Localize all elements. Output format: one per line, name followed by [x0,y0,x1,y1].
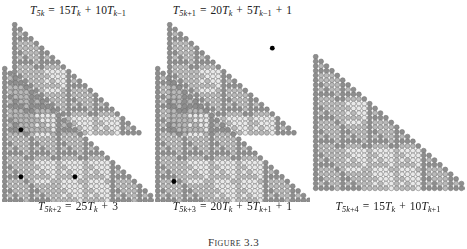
triangle-array-t5k1 [155,22,310,202]
formula-t5k: T5k = 15Tk + 10Tk−1 [2,4,154,18]
formula-t5k2: T5k+2 = 25Tk + 3 [2,200,154,214]
figure-caption: Figure 3.3 [0,236,467,248]
panel-left: T5k = 15Tk + 10Tk−1 T5k+2 = 25Tk + 3 [2,4,154,214]
formula-t5k3: T5k+3 = 20Tk + 5Tk+1 + 1 [155,200,310,214]
triangle-array-t5k [2,22,154,202]
formula-t5k1: T5k+1 = 20Tk + 5Tk−1 + 1 [155,4,310,18]
panel-middle: T5k+1 = 20Tk + 5Tk−1 + 1 T5k+3 = 20Tk + … [155,4,310,214]
figure-root: T5k = 15Tk + 10Tk−1 T5k+2 = 25Tk + 3 T5k… [0,0,467,249]
triangle-array-t5k4 [311,54,465,202]
panel-right: T5k+4 = 15Tk + 10Tk+1 [311,4,465,214]
dot-triangle-canvas-middle [155,22,310,202]
dot-triangle-canvas-left [2,22,154,202]
formula-t5k4: T5k+4 = 15Tk + 10Tk+1 [311,200,465,214]
dot-triangle-canvas-right [311,54,465,202]
